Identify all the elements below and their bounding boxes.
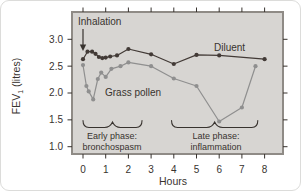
grass-pollen-marker [104, 75, 108, 79]
x-tick-label: 7 [239, 164, 245, 175]
diluent-marker [217, 53, 221, 57]
x-tick-label: 3 [148, 164, 154, 175]
diluent-marker [93, 52, 97, 56]
series-label-diluent: Diluent [214, 42, 245, 53]
x-tick-label: 4 [171, 164, 177, 175]
grass-pollen-marker [253, 64, 257, 68]
grass-pollen-marker [118, 64, 122, 68]
grass-pollen-marker [109, 67, 113, 71]
early-phase-label-line2: bronchospasm [82, 142, 141, 152]
late-phase-label-line2: inflammation [190, 142, 241, 152]
diluent-marker [126, 47, 130, 51]
y-tick-label: 1.0 [49, 141, 63, 152]
grass-pollen-marker [217, 119, 221, 123]
early-phase-label-line1: Early phase: [87, 131, 137, 141]
diluent-marker [108, 54, 112, 58]
diluent-marker [149, 52, 153, 56]
grass-pollen-marker [96, 77, 100, 81]
y-tick-label: 3.0 [49, 34, 63, 45]
y-tick-label: 2.0 [49, 87, 63, 98]
diluent-marker [172, 62, 176, 66]
grass-pollen-marker [81, 63, 85, 67]
x-tick-label: 6 [216, 164, 222, 175]
x-axis-title: Hours [159, 175, 187, 187]
y-axis-title: FEV1 (litres) [10, 58, 24, 114]
grass-pollen-marker [194, 84, 198, 88]
diluent-marker [115, 53, 119, 57]
diluent-marker [194, 53, 198, 57]
grass-pollen-marker [87, 89, 91, 93]
grass-pollen-marker [126, 60, 130, 64]
grass-pollen-marker [99, 71, 103, 75]
figure-card: 3.02.52.01.51.0012345678 Inhalation Dilu… [0, 0, 301, 191]
diluent-marker [263, 57, 267, 61]
x-tick-label: 5 [194, 164, 200, 175]
grass-pollen-marker [240, 105, 244, 109]
late-phase-label-line1: Late phase: [192, 131, 239, 141]
x-tick-label: 0 [80, 164, 86, 175]
diluent-marker [104, 56, 108, 60]
diluent-marker [81, 57, 85, 61]
grass-pollen-marker [172, 76, 176, 80]
grass-pollen-marker [84, 84, 88, 88]
series-label-grass-pollen: Grass pollen [105, 87, 161, 98]
y-tick-label: 2.5 [49, 61, 63, 72]
y-tick-label: 1.5 [49, 114, 63, 125]
x-tick-label: 8 [262, 164, 268, 175]
grass-pollen-marker [149, 64, 153, 68]
fev1-line-chart: 3.02.52.01.51.0012345678 Inhalation Dilu… [1, 1, 301, 191]
x-tick-label: 1 [103, 164, 109, 175]
x-tick-label: 2 [126, 164, 132, 175]
grass-pollen-marker [91, 97, 95, 101]
diluent-marker [85, 50, 89, 54]
inhalation-label: Inhalation [78, 16, 121, 27]
